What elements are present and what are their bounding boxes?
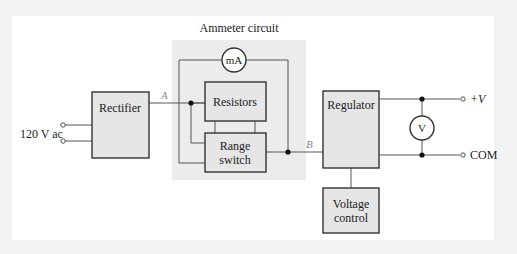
range-switch-label-1: Range bbox=[220, 139, 251, 153]
output-terminal-com bbox=[461, 153, 465, 157]
node-a-label: A bbox=[160, 89, 168, 101]
range-switch-label-2: switch bbox=[219, 153, 250, 167]
junction-dot-a bbox=[188, 100, 193, 105]
junction-dot-b bbox=[285, 149, 290, 154]
figure-frame: Ammeter circuit bbox=[0, 0, 517, 254]
voltmeter-label: V bbox=[418, 122, 426, 134]
resistors-label: Resistors bbox=[213, 95, 257, 109]
node-b-label: B bbox=[306, 138, 313, 150]
ammeter-circuit-title: Ammeter circuit bbox=[200, 21, 280, 35]
output-terminal-pos bbox=[461, 97, 465, 101]
rectifier-label: Rectifier bbox=[99, 101, 141, 115]
junction-dot-com bbox=[419, 152, 424, 157]
voltage-control-label-2: control bbox=[334, 211, 369, 225]
ammeter-label: mA bbox=[226, 54, 243, 66]
junction-dot-pos bbox=[419, 96, 424, 101]
output-com-label: COM bbox=[470, 148, 498, 162]
voltage-control-label-1: Voltage bbox=[333, 197, 369, 211]
output-pos-label: +V bbox=[470, 92, 487, 106]
input-voltage-label: 120 V ac bbox=[20, 127, 63, 141]
regulator-label: Regulator bbox=[327, 98, 374, 112]
power-supply-diagram: Ammeter circuit bbox=[0, 0, 517, 254]
